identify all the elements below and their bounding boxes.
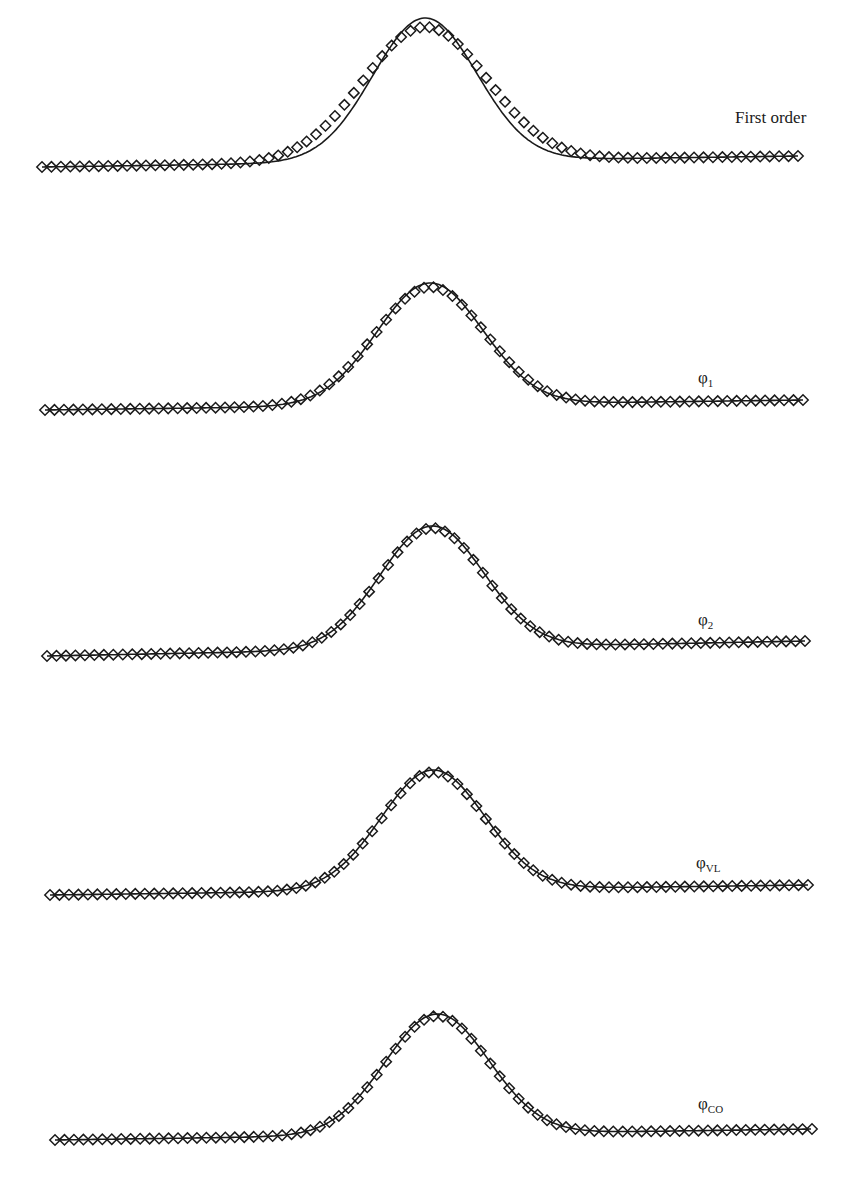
- diamond-marker-icon: [514, 366, 524, 376]
- label-main: φ: [698, 368, 708, 387]
- diamond-marker-icon: [235, 157, 245, 167]
- exact-solution-line: [50, 770, 808, 895]
- exact-solution-line: [45, 283, 803, 410]
- label-main: φ: [698, 610, 708, 629]
- exact-solution-line: [55, 1014, 811, 1140]
- exact-solution-line: [47, 526, 805, 656]
- panel-phi-vl: [45, 767, 813, 900]
- panel-label-phi-co: φCO: [698, 1094, 723, 1115]
- exact-solution-line: [42, 18, 798, 167]
- diamond-marker-icon: [301, 136, 311, 146]
- panel-label-phi-vl: φVL: [696, 853, 720, 874]
- diamond-marker-icon: [528, 125, 538, 135]
- figure-canvas: [0, 0, 860, 1188]
- panel-phi-1: [40, 282, 808, 415]
- label-main: First order: [735, 108, 806, 127]
- diamond-marker-icon: [320, 121, 330, 131]
- diamond-marker-icon: [452, 779, 462, 789]
- diamond-marker-icon: [457, 1023, 467, 1033]
- diamond-marker-icon: [509, 108, 519, 118]
- label-sub: 2: [708, 619, 714, 631]
- diamond-marker-icon: [245, 156, 255, 166]
- diamond-marker-icon: [349, 88, 359, 98]
- panel-label-phi-1: φ1: [698, 368, 713, 389]
- diamond-marker-icon: [405, 778, 415, 788]
- panel-first-order: [37, 18, 803, 172]
- diamond-marker-icon: [339, 100, 349, 110]
- diamond-marker-icon: [504, 357, 514, 367]
- diamond-marker-icon: [594, 151, 604, 161]
- diamond-marker-icon: [409, 1022, 419, 1032]
- diamond-marker-icon: [343, 362, 353, 372]
- diamond-marker-icon: [334, 371, 344, 381]
- panel-phi-2: [42, 523, 810, 661]
- diamond-marker-icon: [330, 111, 340, 121]
- label-main: φ: [698, 1094, 708, 1113]
- diamond-marker-icon: [538, 132, 548, 142]
- diamond-marker-icon: [292, 142, 302, 152]
- label-sub: VL: [706, 862, 721, 874]
- label-sub: CO: [708, 1103, 723, 1115]
- panel-label-phi-2: φ2: [698, 610, 713, 631]
- diamond-marker-icon: [500, 97, 510, 107]
- label-main: φ: [696, 853, 706, 872]
- diamond-marker-icon: [519, 117, 529, 127]
- panel-phi-co: [50, 1011, 817, 1145]
- diamond-marker-icon: [490, 85, 500, 95]
- diamond-marker-icon: [449, 533, 459, 543]
- diamond-marker-icon: [402, 536, 412, 546]
- panel-label-first-order: First order: [735, 108, 806, 129]
- label-sub: 1: [708, 377, 714, 389]
- diamond-marker-icon: [457, 300, 467, 310]
- diamond-marker-icon: [311, 129, 321, 139]
- diamond-marker-icon: [604, 152, 614, 162]
- diamond-marker-icon: [547, 138, 557, 148]
